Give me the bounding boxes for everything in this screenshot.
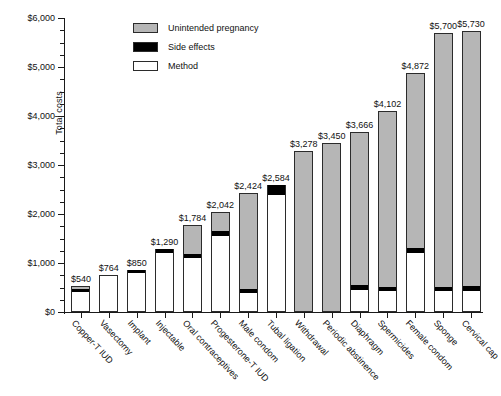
bar[interactable]: $2,424 [239,193,258,312]
bar-value-label: $3,278 [290,139,318,149]
bar-value-label: $5,700 [429,21,457,31]
bar-value-label: $4,102 [374,99,402,109]
bar-segment-method [127,273,146,312]
bar-value-label: $1,784 [179,213,207,223]
x-tick [276,313,277,318]
x-tick [360,313,361,318]
y-tick-major [58,67,64,68]
y-tick-label: $5,000 [27,62,55,72]
bar-segment-unintended-pregnancy [462,31,481,286]
bar-value-label: $2,584 [262,173,290,183]
y-tick-minor [60,202,64,203]
plot-area: $0$1,000$2,000$3,000$4,000$5,000$6,000 $… [64,18,482,313]
bar-value-label: $2,042 [207,200,235,210]
bar-segment-method [406,253,425,312]
y-tick-label: $6,000 [27,13,55,23]
bar[interactable]: $4,102 [378,111,397,312]
bar-segment-unintended-pregnancy [322,143,341,312]
x-tick [81,313,82,318]
x-tick [220,313,221,318]
bar-segment-unintended-pregnancy [434,33,453,287]
bar[interactable]: $1,784 [183,225,202,312]
y-tick-minor [60,177,64,178]
bar[interactable]: $2,042 [211,212,230,312]
x-tick [415,313,416,318]
x-tick [304,313,305,318]
x-category-label: Implant [125,318,152,346]
bar-value-label: $5,730 [457,19,485,29]
bar-segment-method [267,195,286,312]
bar-segment-method [434,291,453,312]
y-tick-minor [60,239,64,240]
bar-value-label: $1,290 [151,237,179,247]
y-axis-title: Total costs [54,58,64,168]
x-category-label: Sponge [432,318,460,348]
bar[interactable]: $5,700 [434,33,453,312]
x-category-label: Cervical cap [460,318,501,361]
x-tick [248,313,249,318]
bar-segment-method [462,291,481,312]
y-tick-minor [60,251,64,252]
bar-value-label: $2,424 [234,181,262,191]
bar[interactable]: $764 [99,275,118,312]
bar-segment-unintended-pregnancy [406,73,425,248]
y-tick-minor [60,226,64,227]
x-tick [443,313,444,318]
bar-segment-method [99,275,118,312]
y-tick-minor [60,55,64,56]
bar-segment-method [155,253,174,312]
bar[interactable]: $850 [127,270,146,312]
y-tick-label: $1,000 [27,258,55,268]
y-axis-line [64,18,65,314]
bar-segment-unintended-pregnancy [183,225,202,254]
bar-segment-unintended-pregnancy [211,212,230,231]
y-tick-minor [60,300,64,301]
y-tick-major [58,214,64,215]
y-tick-minor [60,141,64,142]
x-tick [109,313,110,318]
x-tick [165,313,166,318]
bar[interactable]: $4,872 [406,73,425,312]
x-tick [387,313,388,318]
bar-segment-method [239,293,258,312]
x-tick [192,313,193,318]
bar-value-label: $4,872 [402,61,430,71]
bar-segment-side-effects [267,185,286,195]
bar-segment-unintended-pregnancy [239,193,258,289]
bar-segment-method [71,292,90,312]
x-axis-line [64,312,483,313]
y-tick-label: $2,000 [27,209,55,219]
y-tick-minor [60,30,64,31]
y-tick-minor [60,275,64,276]
x-tick [137,313,138,318]
bar[interactable]: $5,730 [462,31,481,312]
y-tick-major [58,18,64,19]
y-tick-major [58,263,64,264]
y-tick-minor [60,128,64,129]
bar-segment-method [183,258,202,312]
bar[interactable]: $3,278 [294,151,313,312]
y-tick-minor [60,43,64,44]
bar-value-label: $540 [71,274,91,284]
y-tick-label: $3,000 [27,160,55,170]
bar-segment-unintended-pregnancy [294,151,313,312]
bar[interactable]: $540 [71,286,90,313]
bar-segment-method [211,236,230,312]
bar-segment-unintended-pregnancy [350,132,369,285]
y-tick-label: $4,000 [27,111,55,121]
y-tick-minor [60,92,64,93]
y-tick-minor [60,288,64,289]
bar-value-label: $3,450 [318,131,346,141]
y-tick-label: $0 [45,307,55,317]
y-tick-minor [60,79,64,80]
bar[interactable]: $2,584 [267,185,286,312]
y-tick-minor [60,153,64,154]
bar[interactable]: $1,290 [155,249,174,312]
bar[interactable]: $3,666 [350,132,369,312]
bar[interactable]: $3,450 [322,143,341,312]
x-category-label: Female condom [404,318,455,372]
bar-segment-method [378,291,397,312]
x-tick [471,313,472,318]
bar-value-label: $850 [127,258,147,268]
